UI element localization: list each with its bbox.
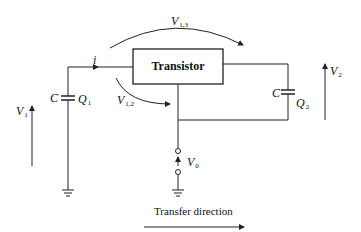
output-capacitor-label: C <box>272 87 280 99</box>
circuit-diagram: Transistor i C Q1 C Q2 V1 V2 V0 V1,2 V1,… <box>0 0 361 232</box>
ground-icon <box>172 190 184 196</box>
input-capacitor-label: C <box>50 92 58 104</box>
v12-label: V1,2 <box>117 94 134 108</box>
terminal-top-icon <box>176 149 181 154</box>
output-capacitor-icon <box>281 90 295 94</box>
transfer-direction-label: Transfer direction <box>154 206 233 217</box>
transistor-label: Transistor <box>133 49 223 84</box>
q1-label: Q1 <box>78 93 91 107</box>
current-label: i <box>93 54 96 66</box>
input-capacitor-icon <box>61 96 75 100</box>
terminal-bottom-icon <box>176 170 181 175</box>
v13-label: V1,3 <box>171 15 188 29</box>
ground-icon <box>62 190 74 196</box>
q2-label: Q2 <box>296 97 309 111</box>
v13-arc-arrow-icon <box>110 28 243 48</box>
v2-label: V2 <box>330 65 342 79</box>
v0-label: V0 <box>187 156 199 170</box>
v1-label: V1 <box>16 105 28 119</box>
circuit-drawing <box>0 0 361 232</box>
